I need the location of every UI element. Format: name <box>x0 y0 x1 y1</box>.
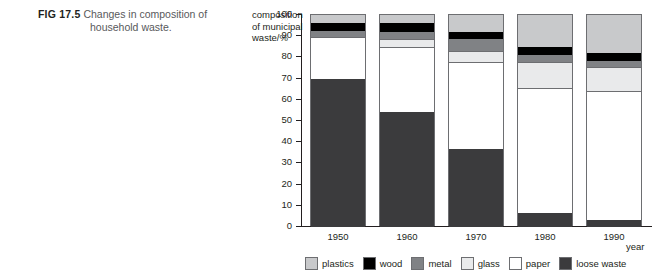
bar-segment-wood <box>518 47 572 55</box>
legend-label-wood: wood <box>380 258 403 269</box>
bar-segment-wood <box>587 53 641 60</box>
legend-swatch-wood <box>363 257 376 270</box>
y-axis-tick-label: 30 <box>266 156 292 167</box>
y-axis-tick-mark <box>296 141 301 142</box>
y-axis-tick-label: 70 <box>266 72 292 83</box>
y-axis-tick-label: 60 <box>266 93 292 104</box>
bar-segment-glass <box>380 39 434 46</box>
legend-label-plastics: plastics <box>322 258 354 269</box>
y-axis-tick-label: 80 <box>266 50 292 61</box>
bar-segment-paper <box>311 37 365 78</box>
y-axis-tick-label: 50 <box>266 114 292 125</box>
bar-segment-glass <box>449 51 503 62</box>
bar-segment-plastics <box>380 15 434 23</box>
y-axis-tick-mark <box>296 120 301 121</box>
bar-segment-wood <box>449 32 503 39</box>
bar-1950 <box>310 14 366 226</box>
bar-segment-plastics <box>449 15 503 32</box>
legend-label-glass: glass <box>478 258 500 269</box>
bar-segment-paper <box>380 47 434 113</box>
y-axis-tick-mark <box>296 56 301 57</box>
legend-item-glass: glass <box>461 257 500 270</box>
y-axis-tick-mark <box>296 184 301 185</box>
bar-segment-paper <box>449 62 503 149</box>
y-axis-tick-label: 40 <box>266 135 292 146</box>
bar-segment-loose-waste <box>311 79 365 227</box>
bar-segment-paper <box>518 88 572 213</box>
y-axis-tick-mark <box>296 162 301 163</box>
bar-segment-wood <box>311 23 365 30</box>
legend-swatch-plastics <box>305 257 318 270</box>
x-axis-tick-label: 1970 <box>448 231 504 242</box>
y-axis-tick-mark <box>296 226 301 227</box>
stacked-bar-chart: 1009080706050403020100 19501960197019801… <box>0 0 670 280</box>
bar-segment-plastics <box>587 15 641 53</box>
legend-swatch-loose-waste <box>559 257 572 270</box>
bar-segment-loose-waste <box>518 213 572 227</box>
y-axis-tick-mark <box>296 14 301 15</box>
legend-swatch-glass <box>461 257 474 270</box>
legend-item-metal: metal <box>411 257 451 270</box>
x-axis-title: year <box>626 241 644 252</box>
bar-segment-loose-waste <box>380 112 434 226</box>
legend-item-loose-waste: loose waste <box>559 257 626 270</box>
bar-1970 <box>448 14 504 226</box>
bar-segment-metal <box>449 39 503 51</box>
bar-segment-metal <box>380 32 434 39</box>
bar-1980 <box>517 14 573 226</box>
legend-item-plastics: plastics <box>305 257 354 270</box>
legend-label-paper: paper <box>526 258 550 269</box>
y-axis-tick-label: 20 <box>266 178 292 189</box>
bar-segment-plastics <box>518 15 572 47</box>
y-axis-tick-mark <box>296 35 301 36</box>
y-axis-tick-label: 10 <box>266 199 292 210</box>
bar-1960 <box>379 14 435 226</box>
bar-segment-loose-waste <box>587 220 641 227</box>
y-axis-tick-mark <box>296 205 301 206</box>
bar-segment-wood <box>380 23 434 31</box>
legend-item-paper: paper <box>509 257 550 270</box>
x-axis-tick-label: 1950 <box>310 231 366 242</box>
y-axis-tick-label: 0 <box>266 220 292 231</box>
legend-swatch-paper <box>509 257 522 270</box>
legend-label-metal: metal <box>428 258 451 269</box>
chart-legend: plasticswoodmetalglasspaperloose waste <box>305 257 626 270</box>
y-axis-tick-label: 90 <box>266 29 292 40</box>
y-axis-line <box>301 14 302 227</box>
y-axis-tick-mark <box>296 99 301 100</box>
x-axis-tick-label: 1980 <box>517 231 573 242</box>
bar-1990 <box>586 14 642 226</box>
legend-swatch-metal <box>411 257 424 270</box>
bar-segment-loose-waste <box>449 149 503 227</box>
bar-segment-glass <box>587 67 641 91</box>
bar-segment-paper <box>587 91 641 219</box>
bar-segment-plastics <box>311 15 365 23</box>
legend-label-loose-waste: loose waste <box>576 258 626 269</box>
y-axis-tick-label: 100 <box>266 8 292 19</box>
x-axis-tick-label: 1960 <box>379 231 435 242</box>
y-axis-tick-mark <box>296 78 301 79</box>
legend-item-wood: wood <box>363 257 403 270</box>
bar-segment-glass <box>518 62 572 89</box>
